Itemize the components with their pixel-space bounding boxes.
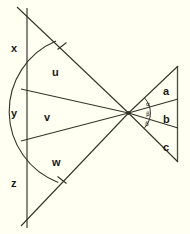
angle-label-alpha: α <box>146 101 150 107</box>
ray-lower-mid <box>21 113 129 141</box>
segment-label-z: z <box>11 178 17 189</box>
ray-top <box>17 7 129 113</box>
angle-label-beta: β <box>146 111 150 117</box>
side-label-c: c <box>163 142 169 153</box>
angle-label-u: u <box>52 67 59 78</box>
angle-label-v: v <box>44 112 50 123</box>
diagram-canvas <box>0 0 190 234</box>
side-label-a: a <box>163 86 169 97</box>
segment-label-x: x <box>11 43 17 54</box>
ray-upper-mid <box>21 89 129 113</box>
vertex-point <box>127 111 131 115</box>
segment-label-y: y <box>11 108 17 119</box>
geometry-diagram: x y z u v w a b c α β δ <box>0 0 190 234</box>
angle-label-delta: δ <box>145 121 149 127</box>
angle-label-w: w <box>52 157 61 168</box>
ray-bottom <box>21 113 129 226</box>
side-label-b: b <box>163 114 170 125</box>
tick-upper-icon <box>58 43 67 50</box>
